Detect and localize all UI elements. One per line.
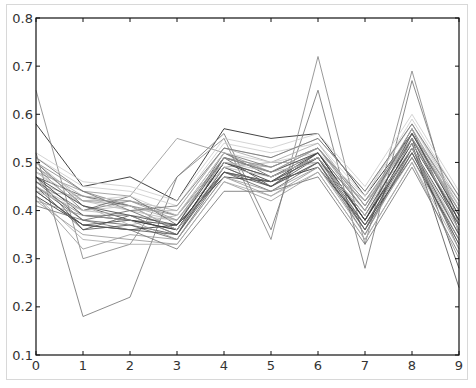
x-tick-label: 6 [314, 358, 322, 373]
y-tick-label: 0.2 [12, 299, 33, 314]
y-tick-label: 0.8 [12, 11, 33, 26]
y-tick-label: 0.6 [12, 107, 33, 122]
x-tick-label: 5 [267, 358, 275, 373]
x-tick-label: 7 [361, 358, 369, 373]
line-chart: 0.10.20.30.40.50.60.70.8 0123456789 [0, 0, 476, 388]
y-tick-label: 0.5 [12, 155, 33, 170]
x-tick-label: 9 [455, 358, 463, 373]
y-tick-label: 0.3 [12, 251, 33, 266]
y-tick-label: 0.1 [12, 348, 33, 363]
x-tick-label: 2 [126, 358, 134, 373]
y-tick-label: 0.7 [12, 59, 33, 74]
series-lines [36, 57, 459, 317]
y-tick-label: 0.4 [12, 203, 33, 218]
x-tick-label: 3 [173, 358, 181, 373]
x-tick-label: 8 [408, 358, 416, 373]
x-tick-label: 1 [79, 358, 87, 373]
x-tick-label: 0 [32, 358, 40, 373]
x-tick-label: 4 [220, 358, 228, 373]
